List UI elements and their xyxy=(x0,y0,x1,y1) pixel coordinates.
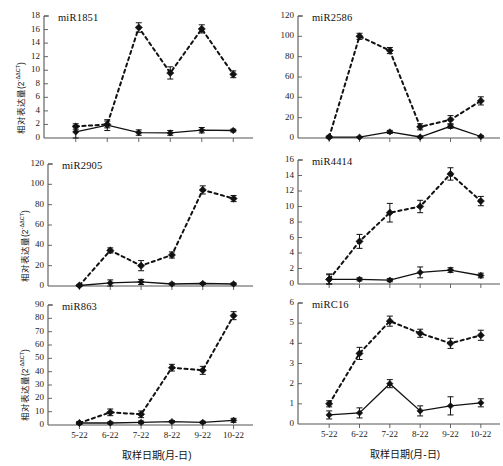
data-point-marker xyxy=(477,332,484,339)
data-point-marker xyxy=(447,340,454,347)
x-axis-label-miRC16: 取样日期(月-日) xyxy=(298,446,503,461)
data-point-marker xyxy=(417,330,424,337)
data-point-marker xyxy=(447,403,453,409)
dashed-line-miRC16 xyxy=(329,321,481,404)
plot-canvas-miRC16 xyxy=(0,0,503,466)
panel-miRC16: miRC1601234565-226-227-228-229-2210-22取样… xyxy=(0,0,503,466)
data-point-marker xyxy=(478,400,484,406)
data-point-marker xyxy=(326,412,332,418)
figure-root: miR1851相对表达量(2-ΔΔCT)024681012141618miR25… xyxy=(0,0,503,466)
x-tick-label: 10-22 xyxy=(463,429,499,439)
solid-line-miRC16 xyxy=(329,384,481,415)
